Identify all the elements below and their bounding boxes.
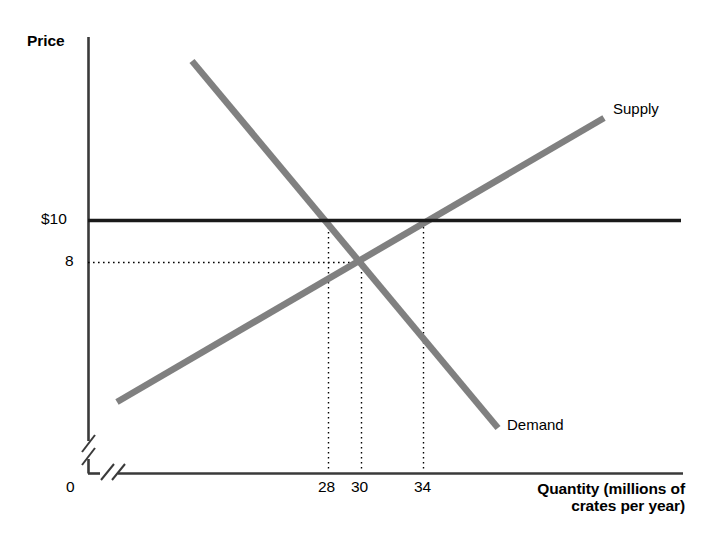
chart-plot-area xyxy=(0,0,712,551)
origin-label: 0 xyxy=(66,479,75,496)
chart-background xyxy=(0,0,712,551)
supply-curve-label: Supply xyxy=(613,101,659,117)
x-tick-label-28: 28 xyxy=(318,479,335,496)
x-axis-title: Quantity (millions ofcrates per year) xyxy=(497,481,685,514)
y-tick-label-8: 8 xyxy=(65,253,74,270)
x-axis-title-line-1: Quantity (millions of xyxy=(537,480,685,497)
x-tick-label-30: 30 xyxy=(351,479,368,496)
x-tick-label-34: 34 xyxy=(414,479,431,496)
demand-curve-label: Demand xyxy=(507,417,564,433)
x-axis-title-line-2: crates per year) xyxy=(571,497,685,514)
y-axis-title: Price xyxy=(27,33,64,50)
y-tick-label-10: $10 xyxy=(41,211,67,228)
supply-demand-chart: Price Quantity (millions ofcrates per ye… xyxy=(0,0,712,551)
